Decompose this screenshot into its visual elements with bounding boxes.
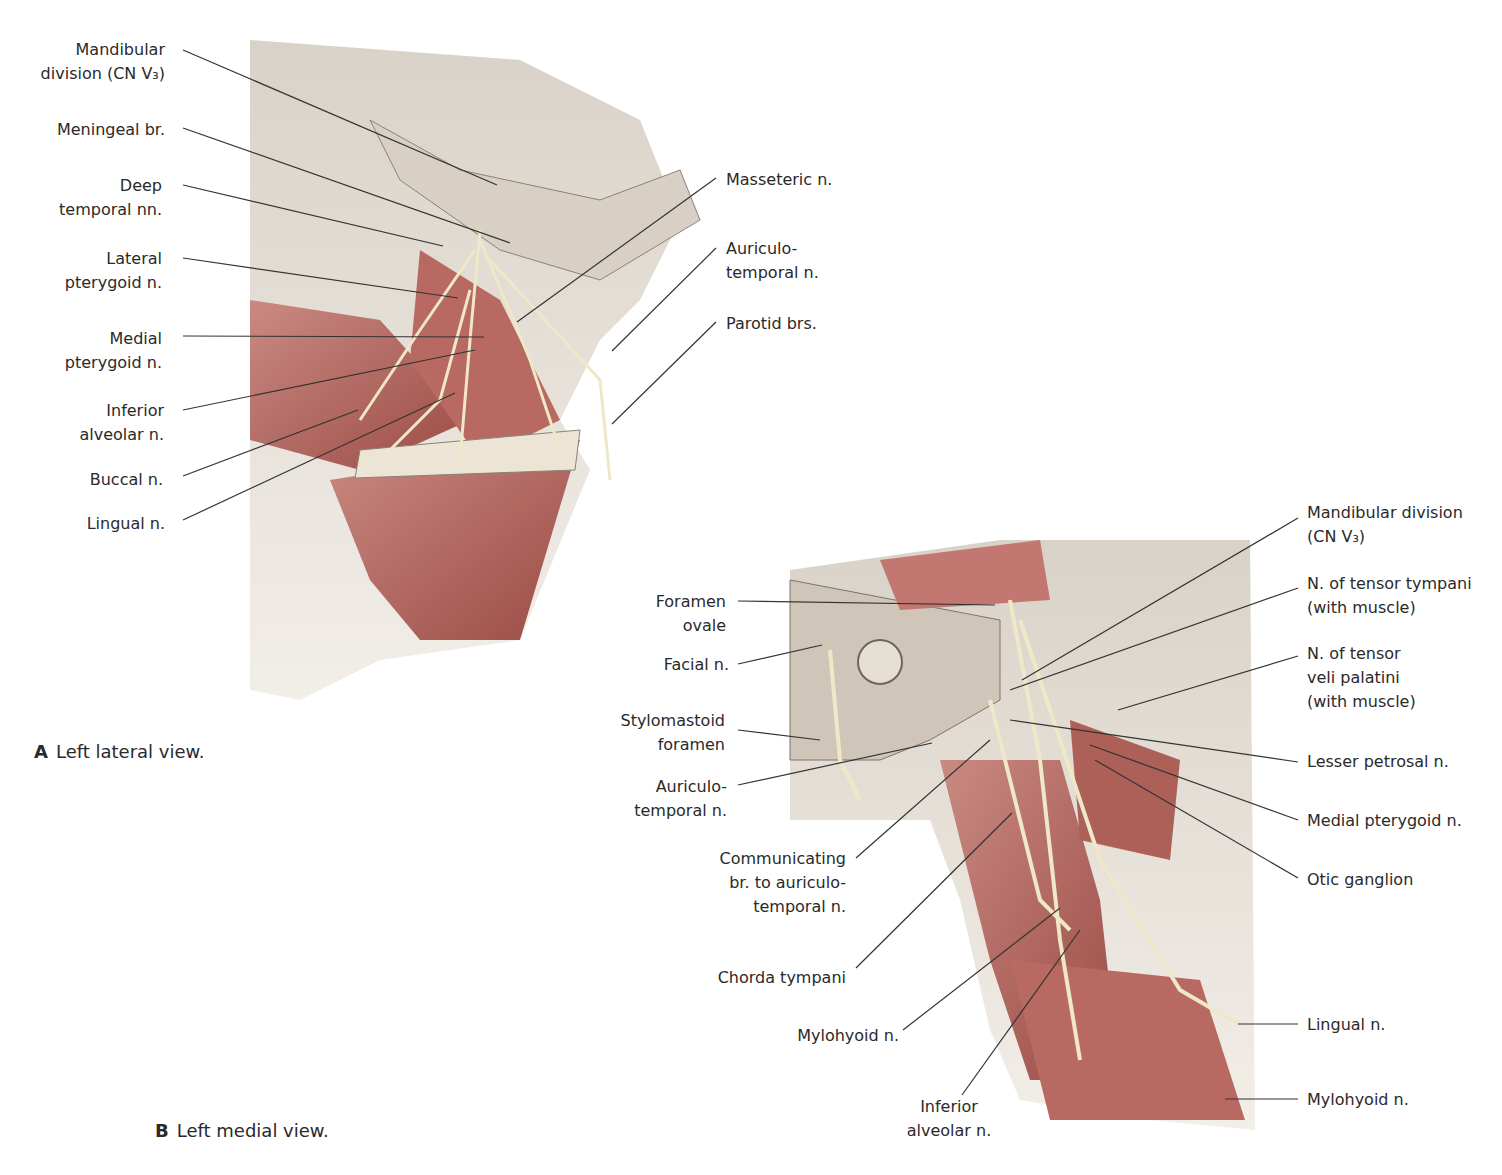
label-nerve-tensor-veli-palatini: N. of tensor veli palatini (with muscle) (1307, 642, 1416, 714)
caption-b-letter: B (155, 1120, 169, 1141)
label-mandibular-division: Mandibular division (CN V₃) (0, 38, 165, 86)
label-nerve-tensor-tympani: N. of tensor tympani (with muscle) (1307, 572, 1472, 620)
caption-a-letter: A (34, 741, 48, 762)
label-deep-temporal-nerves: Deep temporal nn. (0, 174, 162, 222)
label-foramen-ovale: Foramen ovale (560, 590, 726, 638)
label-masseteric-nerve: Masseteric n. (726, 168, 832, 192)
caption-b-text: Left medial view. (177, 1120, 329, 1141)
label-inferior-alveolar-nerve: Inferior alveolar n. (0, 399, 164, 447)
label-communicating-branch: Communicating br. to auriculo- temporal … (660, 847, 846, 919)
label-lateral-pterygoid-nerve: Lateral pterygoid n. (0, 247, 162, 295)
label-parotid-branches: Parotid brs. (726, 312, 817, 336)
label-medial-pterygoid-nerve: Medial pterygoid n. (0, 327, 162, 375)
label-mandibular-division-b: Mandibular division (CN V₃) (1307, 501, 1463, 549)
label-auriculotemporal-nerve-b: Auriculo- temporal n. (560, 775, 727, 823)
caption-a-text: Left lateral view. (56, 741, 204, 762)
label-auriculotemporal-nerve: Auriculo- temporal n. (726, 237, 819, 285)
label-mylohyoid-nerve-right: Mylohyoid n. (1307, 1088, 1409, 1112)
label-lingual-nerve-b: Lingual n. (1307, 1013, 1385, 1037)
label-inferior-alveolar-nerve-b: Inferior alveolar n. (890, 1095, 1008, 1143)
label-buccal-nerve: Buccal n. (0, 468, 163, 492)
label-meningeal-branch: Meningeal br. (0, 118, 165, 142)
label-facial-nerve: Facial n. (560, 653, 729, 677)
caption-a: ALeft lateral view. (34, 741, 204, 762)
label-lingual-nerve: Lingual n. (0, 512, 165, 536)
caption-b: BLeft medial view. (155, 1120, 329, 1141)
label-lesser-petrosal-nerve: Lesser petrosal n. (1307, 750, 1449, 774)
label-mylohyoid-nerve-left: Mylohyoid n. (700, 1024, 899, 1048)
label-stylomastoid-foramen: Stylomastoid foramen (560, 709, 725, 757)
label-medial-pterygoid-nerve-b: Medial pterygoid n. (1307, 809, 1462, 833)
label-chorda-tympani: Chorda tympani (660, 966, 846, 990)
label-otic-ganglion: Otic ganglion (1307, 868, 1413, 892)
